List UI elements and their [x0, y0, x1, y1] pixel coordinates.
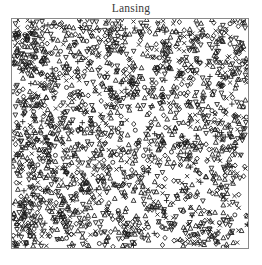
- scatter-points: [12, 19, 248, 248]
- plot-area: [11, 18, 249, 249]
- figure-panel: Lansing: [0, 0, 262, 265]
- page-title: Lansing: [0, 1, 262, 15]
